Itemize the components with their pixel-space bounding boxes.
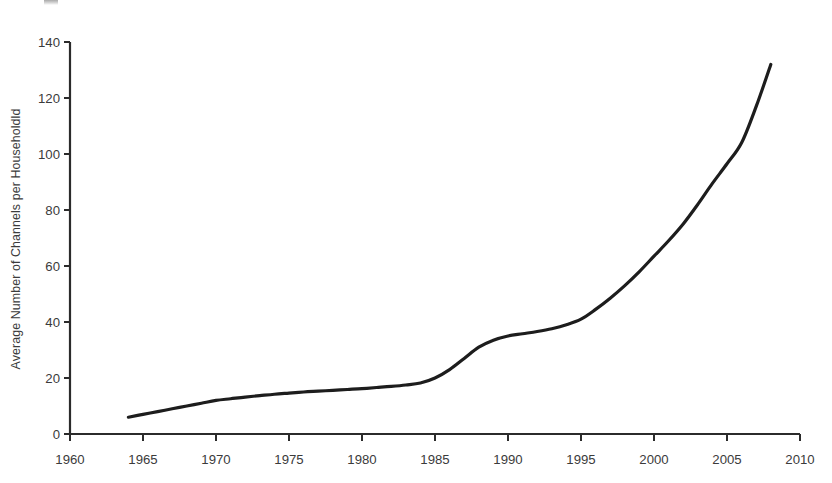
x-tick-label: 1995 — [566, 452, 595, 467]
data-series — [128, 64, 770, 417]
x-tick-label: 2000 — [639, 452, 668, 467]
series-line-0 — [128, 64, 770, 417]
plot-area — [0, 0, 832, 483]
x-tick-label: 1975 — [274, 452, 303, 467]
x-tick-label: 2005 — [712, 452, 741, 467]
y-tick-label: 0 — [8, 427, 60, 442]
y-tick-label: 120 — [8, 91, 60, 106]
y-tick-label: 100 — [8, 147, 60, 162]
x-tick-label: 1970 — [201, 452, 230, 467]
y-tick-label: 60 — [8, 259, 60, 274]
x-tick-label: 1980 — [347, 452, 376, 467]
axes — [64, 42, 800, 441]
y-tick-label: 80 — [8, 203, 60, 218]
x-tick-label: 1960 — [55, 452, 84, 467]
chart-figure: Average Number of Channels per Household… — [0, 0, 832, 483]
x-tick-label: 1985 — [420, 452, 449, 467]
x-tick-label: 1990 — [493, 452, 522, 467]
y-tick-label: 40 — [8, 315, 60, 330]
x-tick-label: 1965 — [128, 452, 157, 467]
y-tick-label: 140 — [8, 35, 60, 50]
x-tick-label: 2010 — [785, 452, 814, 467]
y-tick-label: 20 — [8, 371, 60, 386]
